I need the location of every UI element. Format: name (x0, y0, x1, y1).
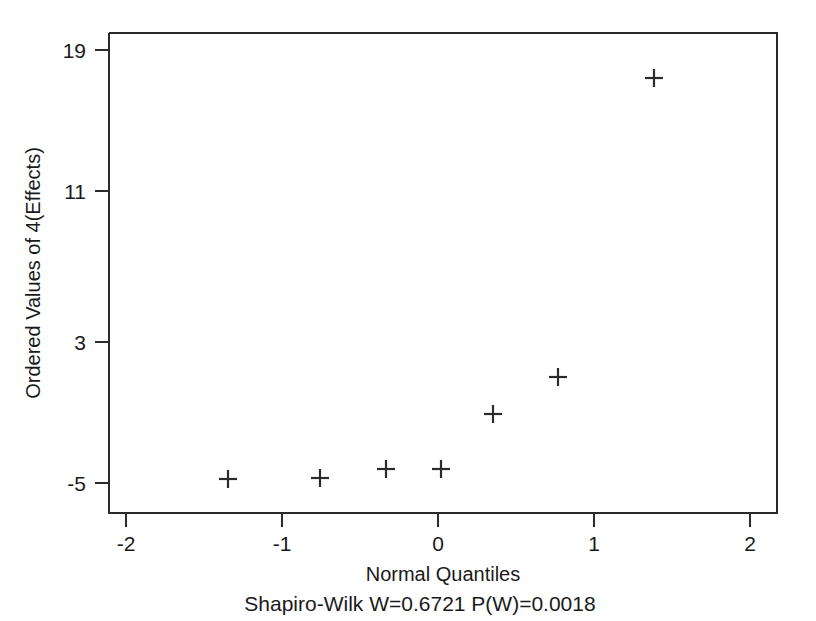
x-axis-ticks (126, 513, 750, 527)
x-tick-label-neg1: -1 (273, 532, 292, 555)
y-tick-label-3: 3 (74, 331, 86, 354)
plot-frame (109, 33, 777, 513)
data-point-marker (311, 469, 329, 487)
data-point-marker (484, 405, 502, 423)
shapiro-wilk-caption: Shapiro-Wilk W=0.6721 P(W)=0.0018 (244, 592, 595, 615)
normal-quantile-plot-figure: -2 -1 0 1 2 -5 3 11 19 (0, 0, 816, 621)
x-axis-title: Normal Quantiles (366, 563, 521, 585)
x-tick-label-0: 0 (432, 532, 444, 555)
y-tick-label-11: 11 (64, 180, 86, 203)
y-tick-label-19: 19 (63, 39, 86, 62)
data-point-marker (219, 470, 237, 488)
scatter-plot-canvas: -2 -1 0 1 2 -5 3 11 19 (0, 0, 816, 621)
x-tick-label-neg2: -2 (117, 532, 136, 555)
data-point-marker (549, 368, 567, 386)
x-tick-label-1: 1 (588, 532, 600, 555)
y-axis-tick-labels: -5 3 11 19 (63, 39, 86, 495)
data-point-series (219, 69, 663, 488)
data-point-marker (645, 69, 663, 87)
y-tick-label-neg5: -5 (67, 472, 86, 495)
y-axis-ticks (95, 50, 109, 483)
y-axis-title: Ordered Values of 4(Effects) (22, 147, 44, 399)
x-axis-tick-labels: -2 -1 0 1 2 (117, 532, 756, 555)
data-point-marker (432, 460, 450, 478)
data-point-marker (377, 460, 395, 478)
x-tick-label-2: 2 (744, 532, 756, 555)
